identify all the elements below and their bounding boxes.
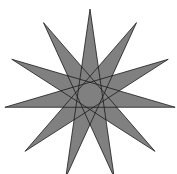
star-diagram [0, 0, 177, 174]
star-polygon-shape [5, 9, 175, 174]
